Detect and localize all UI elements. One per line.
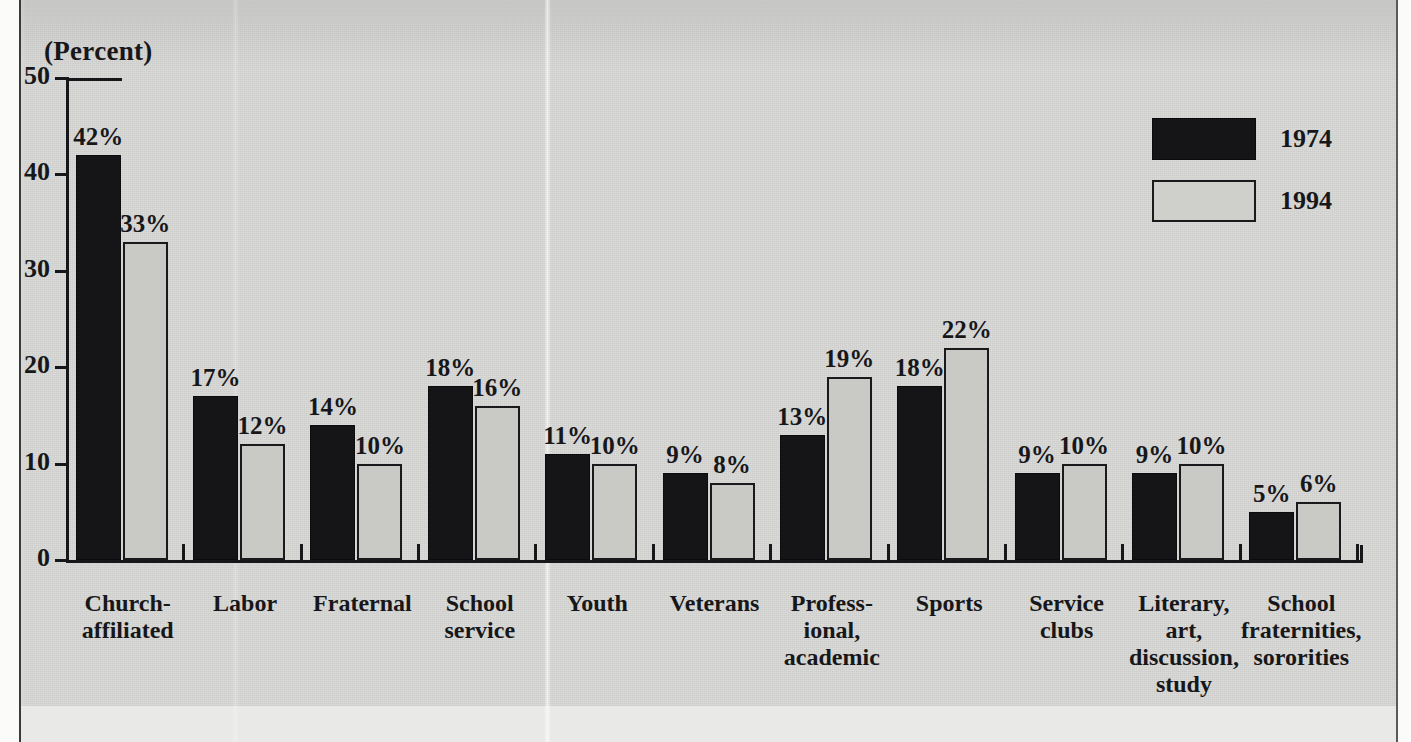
bar-1994-10 bbox=[1296, 502, 1341, 560]
category-label-10: Schoolfraternities,sororities bbox=[1221, 590, 1382, 671]
x-tick-8 bbox=[1004, 544, 1007, 560]
bar-value-label-1994-8: 10% bbox=[1050, 432, 1119, 460]
bar-value-label-1994-9: 10% bbox=[1167, 432, 1236, 460]
y-tick-50 bbox=[55, 77, 69, 80]
x-tick-2 bbox=[300, 544, 303, 560]
category-label-line: study bbox=[1103, 671, 1264, 698]
legend-label-1994: 1994 bbox=[1280, 186, 1332, 216]
x-tick-10 bbox=[1239, 544, 1242, 560]
x-tick-11 bbox=[1356, 544, 1359, 560]
category-label-line: academic bbox=[751, 644, 912, 671]
y-tick-10 bbox=[55, 463, 69, 466]
y-tick-30 bbox=[55, 270, 69, 273]
bar-1994-2 bbox=[357, 464, 402, 560]
y-axis-label-10: 10 bbox=[0, 447, 50, 477]
y-tick-0 bbox=[55, 559, 69, 562]
y-axis-label-30: 30 bbox=[0, 254, 50, 284]
legend-swatch-1974 bbox=[1152, 118, 1256, 160]
y-axis-label-50: 50 bbox=[0, 61, 50, 91]
bar-value-label-1974-1: 17% bbox=[181, 364, 250, 392]
category-label-line: affiliated bbox=[47, 617, 208, 644]
bar-1974-6 bbox=[780, 435, 825, 560]
legend-label-1974: 1974 bbox=[1280, 124, 1332, 154]
bar-value-label-1994-10: 6% bbox=[1284, 470, 1353, 498]
bar-1974-10 bbox=[1249, 512, 1294, 560]
bar-value-label-1994-2: 10% bbox=[345, 432, 414, 460]
x-tick-3 bbox=[417, 544, 420, 560]
bar-1994-6 bbox=[827, 377, 872, 560]
x-tick-7 bbox=[887, 544, 890, 560]
bar-value-label-1994-5: 8% bbox=[698, 451, 767, 479]
bar-value-label-1994-4: 10% bbox=[580, 432, 649, 460]
x-tick-1 bbox=[182, 544, 185, 560]
bar-1994-9 bbox=[1179, 464, 1224, 560]
bar-1994-3 bbox=[475, 406, 520, 560]
x-axis-end-cap bbox=[1360, 545, 1363, 563]
bar-1974-4 bbox=[545, 454, 590, 560]
bar-1994-7 bbox=[944, 348, 989, 560]
chart-plot-area: (Percent) 50403020100 42%33%17%12%14%10%… bbox=[0, 0, 1411, 742]
bar-1974-5 bbox=[663, 473, 708, 560]
category-label-line: fraternities, bbox=[1221, 617, 1382, 644]
x-tick-6 bbox=[769, 544, 772, 560]
bar-value-label-1974-2: 14% bbox=[298, 393, 367, 421]
legend-swatch-1994 bbox=[1152, 180, 1256, 222]
x-tick-4 bbox=[534, 544, 537, 560]
category-label-line: sororities bbox=[1221, 644, 1382, 671]
y-axis-top-cap bbox=[66, 78, 122, 81]
category-label-line: ional, bbox=[751, 617, 912, 644]
bar-1974-3 bbox=[428, 386, 473, 560]
bar-value-label-1994-7: 22% bbox=[932, 316, 1001, 344]
y-axis-label-0: 0 bbox=[0, 543, 50, 573]
bar-1974-9 bbox=[1132, 473, 1177, 560]
bar-1994-1 bbox=[240, 444, 285, 560]
bar-value-label-1994-3: 16% bbox=[463, 374, 532, 402]
category-label-line: School bbox=[1221, 590, 1382, 617]
category-label-line: service bbox=[399, 617, 560, 644]
bar-value-label-1994-1: 12% bbox=[228, 412, 297, 440]
bar-value-label-1974-0: 42% bbox=[64, 123, 133, 151]
bar-1974-8 bbox=[1015, 473, 1060, 560]
bar-1994-0 bbox=[123, 242, 168, 560]
bar-1974-7 bbox=[897, 386, 942, 560]
x-axis-line bbox=[66, 560, 1363, 563]
axis-unit-label: (Percent) bbox=[44, 36, 153, 67]
y-axis-label-40: 40 bbox=[0, 157, 50, 187]
bar-value-label-1994-0: 33% bbox=[111, 210, 180, 238]
y-axis-label-20: 20 bbox=[0, 350, 50, 380]
y-tick-40 bbox=[55, 173, 69, 176]
x-tick-9 bbox=[1121, 544, 1124, 560]
bar-1994-4 bbox=[592, 464, 637, 560]
bar-value-label-1994-6: 19% bbox=[815, 345, 884, 373]
y-tick-20 bbox=[55, 366, 69, 369]
bar-1994-5 bbox=[710, 483, 755, 560]
bar-1994-8 bbox=[1062, 464, 1107, 560]
x-tick-5 bbox=[652, 544, 655, 560]
